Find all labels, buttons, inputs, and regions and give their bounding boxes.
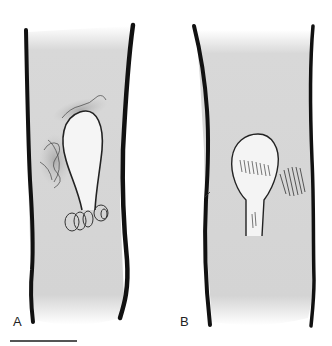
figure: A B: [0, 0, 332, 346]
figure-illustration: [0, 0, 332, 346]
panel-label-a: A: [13, 314, 22, 329]
panel-a: [26, 25, 133, 325]
scale-bar: [10, 340, 77, 342]
panel-b: [194, 26, 314, 326]
panel-label-b: B: [180, 314, 189, 329]
